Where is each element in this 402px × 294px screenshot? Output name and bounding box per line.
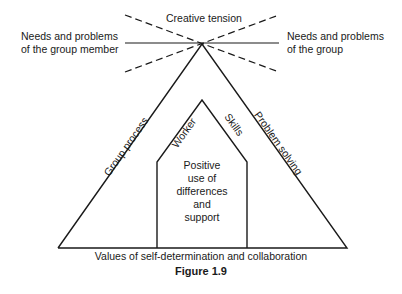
group-needs-line1: Needs and problems (287, 30, 384, 43)
group-member-needs-label: Needs and problems of the group member (21, 30, 118, 56)
center-line-3: differences (158, 185, 246, 198)
group-member-needs-line1: Needs and problems (21, 30, 118, 43)
center-line-4: and (158, 198, 246, 211)
group-needs-label: Needs and problems of the group (287, 30, 384, 56)
creative-tension-label: Creative tension (166, 12, 242, 25)
center-line-1: Positive (158, 159, 246, 172)
figure-caption: Figure 1.9 (0, 265, 402, 278)
center-text: Positive use of differences and support (158, 159, 246, 224)
group-needs-line2: of the group (287, 43, 384, 56)
center-line-2: use of (158, 172, 246, 185)
base-label: Values of self-determination and collabo… (0, 250, 402, 263)
center-line-5: support (158, 211, 246, 224)
group-member-needs-line2: of the group member (21, 43, 118, 56)
